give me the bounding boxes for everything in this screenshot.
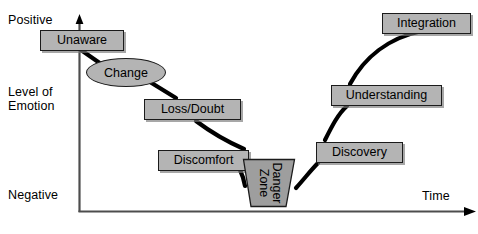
x-axis-arrow-icon: [464, 207, 476, 216]
stage-node-change[interactable]: Change: [86, 58, 166, 87]
danger-zone-text-wrap: Danger Zone: [240, 158, 298, 208]
stage-label-loss-doubt: Loss/Doubt: [161, 103, 224, 116]
axis-label-negative: Negative: [8, 188, 58, 202]
curve-segment-danger-discovery: [296, 163, 318, 188]
curve-segment-understanding-integration: [350, 31, 422, 84]
stage-label-unaware: Unaware: [57, 34, 107, 47]
curve-segment-loss-discomfort: [196, 121, 244, 149]
stage-label-change: Change: [104, 66, 148, 80]
curve-segment-change-loss: [150, 82, 176, 98]
stage-node-understanding[interactable]: Understanding: [331, 85, 442, 106]
stage-label-integration: Integration: [397, 17, 456, 30]
stage-node-danger-zone[interactable]: Danger Zone: [240, 158, 298, 208]
curve-segment-discovery-understanding: [325, 106, 347, 140]
axis-label-time: Time: [422, 189, 450, 203]
axis-label-positive: Positive: [8, 13, 53, 27]
stage-node-unaware[interactable]: Unaware: [40, 30, 124, 51]
change-curve-diagram: Positive Level of Emotion Negative Time …: [0, 0, 478, 234]
stage-label-discomfort: Discomfort: [174, 154, 234, 167]
axis-label-level-of-emotion: Level of Emotion: [8, 85, 55, 113]
stage-label-danger-zone: Danger Zone: [256, 163, 282, 204]
y-axis-arrow-icon: [76, 14, 84, 24]
stage-node-discomfort[interactable]: Discomfort: [158, 150, 249, 171]
stage-label-understanding: Understanding: [346, 89, 427, 102]
stage-node-discovery[interactable]: Discovery: [316, 142, 403, 163]
stage-label-discovery: Discovery: [332, 146, 387, 159]
stage-node-loss-doubt[interactable]: Loss/Doubt: [144, 99, 241, 120]
stage-node-integration[interactable]: Integration: [382, 13, 471, 34]
